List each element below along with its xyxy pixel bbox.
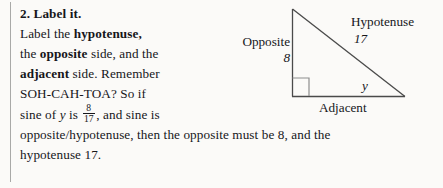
- right-triangle-figure: Opposite 8 Hypotenuse 17 Adjacent y: [220, 0, 443, 125]
- worksheet-page: 2. Label it. Label the hypotenuse, the o…: [0, 0, 443, 188]
- label-hypotenuse: Hypotenuse: [351, 14, 414, 29]
- fraction-denominator: 17: [83, 113, 95, 124]
- term-opposite: opposite: [40, 46, 88, 61]
- instruction-line-2: the opposite side, and the: [20, 44, 220, 64]
- term-adjacent: adjacent: [20, 66, 69, 81]
- instruction-line-2-prefix: the: [20, 46, 40, 61]
- instruction-line-5: sine of y is 817, and sine is: [20, 104, 220, 125]
- instruction-line-1: Label the hypotenuse,: [20, 24, 220, 44]
- label-adjacent: Adjacent: [319, 100, 367, 115]
- instruction-line-5-suffix: , and sine is: [96, 107, 160, 122]
- fraction-numerator: 8: [83, 103, 95, 113]
- label-angle-y: y: [362, 78, 368, 93]
- label-opposite: Opposite: [222, 34, 290, 49]
- instruction-line-6: opposite/hypotenuse, then the opposite m…: [20, 125, 440, 145]
- instruction-line-2-suffix: side, and the: [88, 46, 159, 61]
- instruction-line-1-text: Label the: [20, 26, 74, 41]
- instruction-line-3-suffix: side. Remember: [69, 66, 160, 81]
- right-angle-marker-icon: [293, 78, 310, 96]
- instruction-line-3: adjacent side. Remember: [20, 64, 220, 84]
- label-opposite-value: 8: [222, 50, 290, 65]
- instruction-line-7: hypotenuse 17.: [20, 145, 440, 165]
- instruction-line-5-is: is: [66, 107, 82, 122]
- instruction-line-5-prefix: sine of: [20, 107, 60, 122]
- left-margin-rule: [10, 2, 11, 182]
- label-hypotenuse-value: 17: [354, 31, 367, 46]
- instruction-line-4: SOH-CAH-TOA? So if: [20, 84, 220, 104]
- fraction-eight-seventeenths: 817: [83, 103, 95, 124]
- term-hypotenuse: hypotenuse,: [74, 26, 142, 41]
